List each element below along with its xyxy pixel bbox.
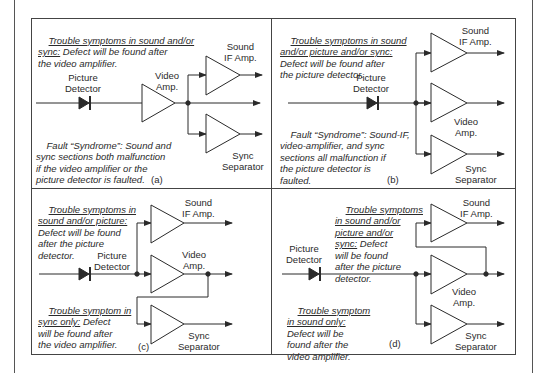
- diode-icon: [367, 97, 377, 109]
- panel-c-sync-text: Trouble symptom insync only: Defectwill …: [38, 293, 131, 362]
- trouble-line: after the picture: [38, 238, 104, 249]
- panel-d-caption: (d): [389, 338, 401, 349]
- trouble-line: Defect will be: [287, 328, 344, 339]
- sync-separator-label: Sync Separator: [222, 150, 264, 172]
- panel-b-caption: (b): [387, 174, 399, 185]
- picture-detector-label: Picture Detector: [286, 243, 322, 265]
- trouble-line: detector.: [38, 250, 75, 261]
- trouble-line: found after the: [287, 339, 348, 350]
- trouble-line: Trouble symptoms: [346, 204, 423, 215]
- fault-line: the picture detector is: [280, 163, 371, 174]
- trouble-line: the video amplifier.: [38, 339, 117, 350]
- video-amp-label: Video Amp.: [452, 286, 476, 308]
- trouble-line: Defect: [80, 316, 110, 327]
- sync-separator-label: Sync Separator: [455, 330, 497, 352]
- fault-line: Fault “Syndrome”: Sound and: [47, 140, 172, 151]
- trouble-line: Defect: [357, 238, 387, 249]
- trouble-line: Defect will be found after: [60, 46, 167, 57]
- trouble-line: Trouble symptoms in sound: [291, 35, 407, 46]
- sound-if-amp-label: Sound IF Amp.: [459, 25, 492, 47]
- panel-b-fault-text: Fault “Syndrome”: Sound-IF,video-amplifi…: [280, 117, 410, 198]
- trouble-line: detector.: [335, 273, 372, 284]
- trouble-line: the picture detector.: [280, 69, 364, 80]
- trouble-line: sync:: [335, 238, 357, 249]
- trouble-line: picture and/or: [335, 227, 393, 238]
- trouble-line: and/or picture and/or sync:: [280, 46, 392, 57]
- fault-line: Fault “Syndrome”: Sound-IF,: [291, 129, 410, 140]
- panel-c-caption: (c): [138, 341, 149, 352]
- video-amp-label: Video Amp.: [454, 116, 478, 138]
- fault-line: if the video amplifier or the: [36, 163, 147, 174]
- fault-line: faulted.: [280, 175, 311, 186]
- fault-line: video-amplifier, and sync: [280, 140, 385, 151]
- picture-detector-label: Picture Detector: [65, 72, 101, 94]
- fault-line: sync sections both malfunction: [36, 151, 165, 162]
- sound-if-amp-label: Sound IF Amp.: [460, 197, 493, 219]
- picture-detector-label: Picture Detector: [353, 72, 389, 94]
- trouble-line: the video amplifier.: [38, 58, 117, 69]
- trouble-line: sync only:: [38, 316, 80, 327]
- trouble-line: sound and/or picture:: [38, 215, 127, 226]
- trouble-line: Defect will be found after: [280, 58, 385, 69]
- diode-icon: [309, 268, 319, 280]
- picture-detector-label: Picture Detector: [94, 250, 130, 272]
- fault-line: sections all malfunction if: [280, 152, 386, 163]
- trouble-line: sync:: [38, 46, 60, 57]
- trouble-line: after the picture: [335, 261, 401, 272]
- trouble-line: video amplifier.: [287, 351, 351, 362]
- trouble-line: Trouble symptom: [298, 305, 371, 316]
- sync-separator-label: Sync Separator: [178, 330, 220, 352]
- trouble-line: will be found: [335, 250, 388, 261]
- panel-d-trouble-text: Trouble symptomsin sound and/orpicture a…: [335, 192, 423, 296]
- panel-a-caption: (a): [151, 174, 163, 185]
- trouble-line: in sound and/or: [335, 215, 401, 226]
- sound-if-amp-label: Sound IF Amp.: [182, 197, 215, 219]
- fault-line: picture detector is faulted.: [36, 174, 145, 185]
- panel-d-sound-text: Trouble symptomin sound only:Defect will…: [287, 293, 370, 373]
- sync-separator-label: Sync Separator: [455, 163, 497, 185]
- trouble-line: Defect will be found: [38, 227, 121, 238]
- trouble-line: in sound only:: [287, 316, 346, 327]
- video-amp-label: Video Amp.: [182, 249, 206, 271]
- trouble-line: Trouble symptoms in: [49, 204, 136, 215]
- diode-icon: [79, 97, 89, 109]
- trouble-line: Trouble symptom in: [49, 305, 132, 316]
- panel-a-fault-text: Fault “Syndrome”: Sound andsync sections…: [36, 128, 171, 197]
- trouble-line: will be found after: [38, 328, 112, 339]
- trouble-line: Trouble symptoms in sound and/or: [49, 35, 195, 46]
- video-amp-label: Video Amp.: [155, 70, 179, 92]
- sound-if-amp-label: Sound IF Amp.: [224, 41, 257, 63]
